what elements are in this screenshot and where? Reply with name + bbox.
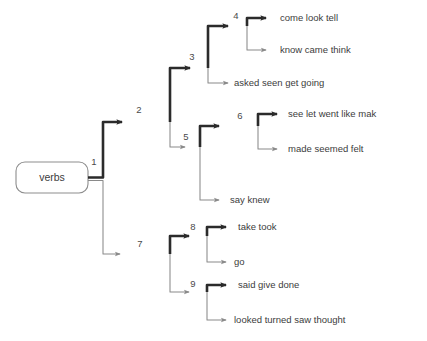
edge-7-to-9 bbox=[170, 254, 189, 292]
leaf-label-see-let-went-like-mak: see let went like mak bbox=[288, 108, 376, 119]
edge-4-to-leaf-know bbox=[247, 26, 266, 50]
leaf-label-said-give-done: said give done bbox=[238, 279, 299, 290]
edge-6-to-leaf-see bbox=[258, 114, 277, 126]
edge-7-to-8 bbox=[170, 236, 189, 254]
leaf-label-asked-seen-get-going: asked seen get going bbox=[234, 77, 324, 88]
leaf-label-go: go bbox=[234, 256, 245, 267]
edge-8-to-leaf-go bbox=[207, 236, 226, 262]
split-label-8: 8 bbox=[190, 221, 195, 232]
edge-8-to-leaf-take bbox=[207, 227, 226, 236]
split-label-5: 5 bbox=[183, 131, 188, 142]
edge-6-to-leaf-made bbox=[258, 126, 277, 149]
edge-4-to-leaf-come bbox=[247, 18, 266, 26]
verb-tree-diagram: verbs 1 2 3 4 5 6 7 8 bbox=[0, 0, 427, 341]
split-label-4: 4 bbox=[233, 10, 238, 21]
edge-2-to-3 bbox=[170, 68, 190, 122]
edge-5-to-leaf-say bbox=[200, 147, 219, 200]
leaf-label-made-seemed-felt: made seemed felt bbox=[288, 143, 364, 154]
split-label-6: 6 bbox=[237, 110, 242, 121]
edge-9-to-leaf-said bbox=[207, 285, 226, 292]
edge-1-to-2 bbox=[88, 122, 122, 178]
edge-1-to-7 bbox=[88, 181, 120, 255]
edge-9-to-leaf-looked bbox=[207, 292, 226, 320]
leaf-label-looked-turned-saw-thought: looked turned saw thought bbox=[234, 314, 346, 325]
split-label-1: 1 bbox=[91, 156, 96, 167]
leaf-label-come-look-tell: come look tell bbox=[280, 12, 338, 23]
edge-5-to-6 bbox=[200, 126, 219, 147]
leaf-label-take-took: take took bbox=[238, 221, 277, 232]
split-label-7: 7 bbox=[137, 238, 142, 249]
edge-3-to-4 bbox=[208, 26, 228, 68]
edge-3-to-leaf-asked bbox=[208, 68, 228, 83]
split-label-2: 2 bbox=[136, 104, 141, 115]
split-label-9: 9 bbox=[190, 278, 195, 289]
root-node-label: verbs bbox=[39, 171, 65, 183]
split-label-3: 3 bbox=[189, 51, 194, 62]
leaf-label-know-came-think: know came think bbox=[280, 44, 351, 55]
leaf-label-say-knew: say knew bbox=[230, 194, 270, 205]
tree-svg-canvas: verbs 1 2 3 4 5 6 7 8 bbox=[0, 0, 427, 341]
